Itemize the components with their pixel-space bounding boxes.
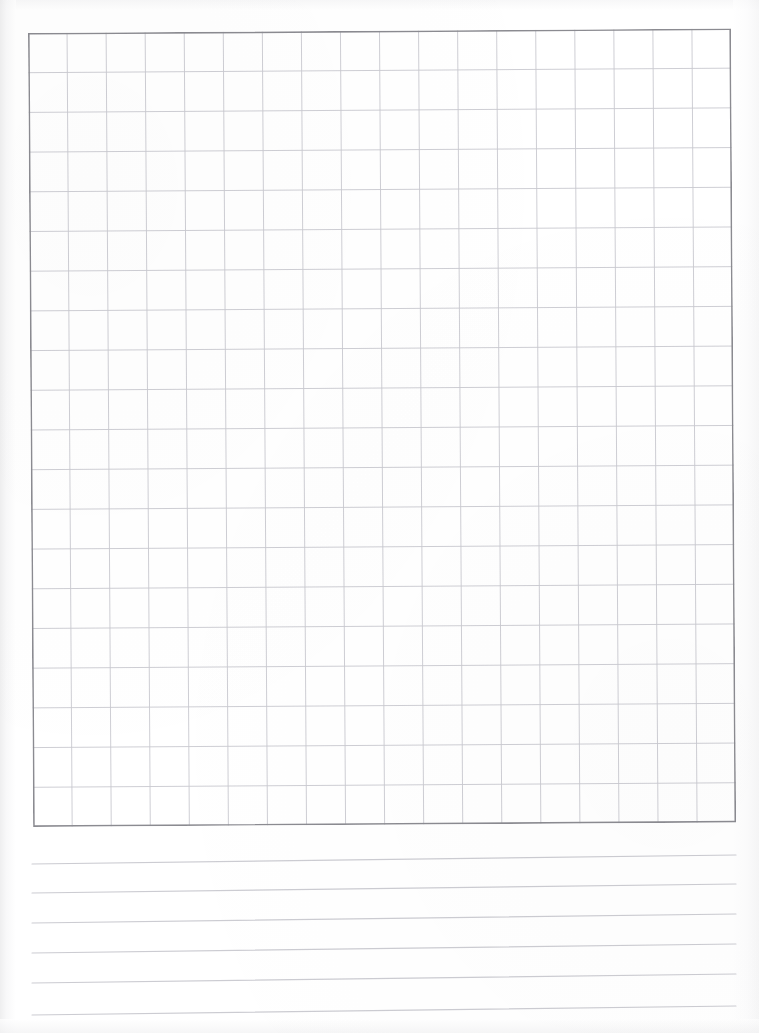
graph-paper-grid — [28, 28, 736, 827]
ruled-lines-area — [0, 845, 759, 1033]
ruled-line-group — [32, 855, 736, 1015]
grid-inner-lines — [28, 28, 736, 827]
ruled-line — [32, 974, 736, 983]
ruled-line — [32, 884, 736, 893]
ruled-line — [32, 944, 736, 953]
ruled-line — [32, 1006, 736, 1015]
scan-edge-top — [0, 0, 759, 10]
ruled-line — [32, 855, 736, 864]
ruled-lines-canvas — [0, 845, 759, 1033]
grid-canvas — [28, 28, 736, 827]
ruled-line — [32, 914, 736, 923]
scanned-page — [0, 0, 759, 1033]
